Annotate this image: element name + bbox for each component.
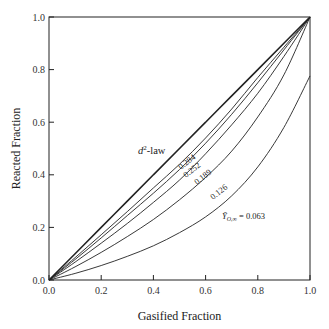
- x-tick-label: 0.6: [199, 285, 212, 296]
- x-tick-label: 0.4: [147, 285, 160, 296]
- x-tick-label: 1.0: [304, 285, 317, 296]
- label-0-126: 0.126: [208, 182, 229, 202]
- y-tick-label: 0.8: [33, 64, 46, 75]
- y-tick-label: 0.4: [33, 169, 46, 180]
- label-d2-law: d2-law: [138, 144, 166, 156]
- y-tick-label: 0.2: [33, 222, 46, 233]
- label-0-063-rest: = 0.063: [237, 211, 265, 221]
- y-tick-label: 0.0: [33, 275, 46, 286]
- x-axis-label: Gasified Fraction: [138, 309, 222, 323]
- y-axis-label: Reacted Fraction: [9, 108, 23, 190]
- y-tick-label: 0.6: [33, 117, 46, 128]
- x-tick-label: 0.2: [95, 285, 108, 296]
- chart: 0.00.20.40.60.81.00.00.20.40.60.81.0 Gas…: [0, 0, 329, 329]
- x-tick-label: 0.8: [252, 285, 265, 296]
- y-tick-label: 1.0: [33, 12, 46, 23]
- curves-group: [49, 17, 310, 280]
- label-d2-law-rest: -law: [147, 145, 166, 156]
- label-0-063: ỸO,∞ = 0.063: [222, 211, 265, 222]
- x-tick-label: 0.0: [43, 285, 56, 296]
